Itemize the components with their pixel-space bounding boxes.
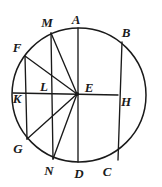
label-A: A [72, 13, 81, 26]
label-L: L [40, 80, 48, 93]
label-H: H [121, 95, 131, 108]
segments-group [13, 28, 122, 162]
geometry-canvas [0, 0, 162, 187]
center-point-E [75, 92, 79, 96]
label-F: F [13, 41, 22, 54]
label-N: N [44, 164, 53, 177]
label-B: B [122, 26, 131, 39]
segment-M-N [51, 33, 53, 159]
label-G: G [13, 142, 22, 155]
segment-F-G [25, 56, 27, 139]
label-C: C [103, 165, 112, 178]
label-M: M [41, 16, 53, 29]
segment-K-H [13, 93, 118, 95]
label-K: K [13, 92, 22, 105]
label-D: D [74, 167, 83, 180]
segment-E-N [53, 94, 77, 159]
label-E: E [85, 81, 94, 94]
geometry-figure: MABFLEKHGNDC [0, 0, 162, 187]
